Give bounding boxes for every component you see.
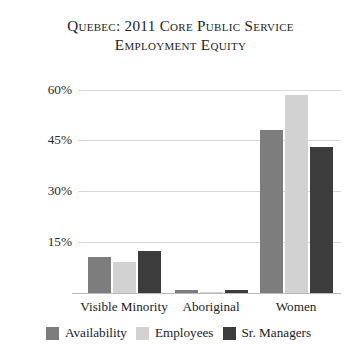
- chart-figure: Quebec: 2011 Core Public Service Employm…: [0, 0, 357, 355]
- y-axis-tick-label: 60%: [26, 82, 72, 98]
- legend-swatch-icon: [46, 327, 59, 340]
- x-axis-category-label-text: Aboriginal: [182, 299, 239, 315]
- x-axis-category-label-text: Women: [276, 299, 317, 315]
- chart-title-line-2: Employment Equity: [115, 36, 246, 53]
- x-axis-category-label-text: Visible Minority: [80, 299, 168, 315]
- bar-group: [88, 76, 161, 293]
- y-axis-tick-label: 30%: [26, 183, 72, 199]
- chart-title-line-1: Quebec: 2011 Core Public Service: [67, 17, 294, 34]
- y-axis-tick-label: 45%: [26, 132, 72, 148]
- legend-label: Sr. Managers: [242, 325, 312, 341]
- chart-title: Quebec: 2011 Core Public Service Employm…: [28, 16, 333, 54]
- legend-item[interactable]: Availability: [46, 325, 127, 341]
- y-axis-tick-labels: 15%30%45%60%: [22, 76, 72, 293]
- bar-group: [260, 76, 333, 293]
- bar[interactable]: [285, 95, 308, 293]
- legend-item[interactable]: Employees: [136, 325, 214, 341]
- bar-group: [175, 76, 248, 293]
- plot-area: [78, 76, 341, 293]
- x-axis-line: [72, 293, 341, 294]
- bar[interactable]: [88, 257, 111, 293]
- bar[interactable]: [310, 147, 333, 293]
- legend-item[interactable]: Sr. Managers: [223, 325, 312, 341]
- legend-label: Availability: [65, 325, 127, 341]
- legend-swatch-icon: [223, 327, 236, 340]
- bar[interactable]: [260, 130, 283, 293]
- bar[interactable]: [113, 262, 136, 293]
- y-axis-tick-label: 15%: [26, 234, 72, 250]
- chart-legend: AvailabilityEmployeesSr. Managers: [8, 325, 349, 341]
- legend-label: Employees: [155, 325, 214, 341]
- bar[interactable]: [138, 251, 161, 293]
- legend-swatch-icon: [136, 327, 149, 340]
